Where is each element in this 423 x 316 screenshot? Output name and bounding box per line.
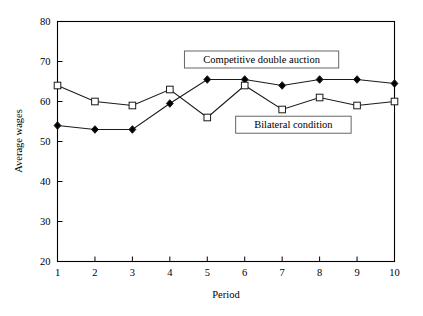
data-point-marker	[204, 114, 211, 121]
series-label-2: Bilateral condition	[236, 116, 351, 133]
x-axis-tick-label: 8	[317, 267, 322, 278]
data-point-marker	[167, 86, 174, 93]
y-axis-tick-label: 30	[40, 216, 51, 227]
y-axis-tick-label: 50	[40, 136, 51, 147]
series-label-text: Bilateral condition	[254, 119, 333, 130]
y-axis-tick-label: 60	[40, 96, 51, 107]
data-point-marker	[354, 102, 361, 109]
x-axis-tick-label: 5	[205, 267, 210, 278]
data-point-marker	[316, 94, 323, 101]
x-axis-tick-label: 9	[354, 267, 359, 278]
data-point-marker	[92, 98, 99, 105]
data-point-marker	[241, 82, 248, 89]
y-axis-title: Average wages	[13, 109, 24, 173]
x-axis-tick-label: 6	[242, 267, 247, 278]
average-wages-line-chart: 20304050607080 12345678910 Competitive d…	[0, 0, 423, 316]
y-axis-tick-label: 80	[40, 16, 51, 27]
x-axis-tick-label: 7	[280, 267, 285, 278]
chart-container: 20304050607080 12345678910 Competitive d…	[0, 0, 423, 316]
data-point-marker	[391, 98, 398, 105]
x-axis-title: Period	[212, 289, 240, 300]
x-axis-tick-label: 3	[130, 267, 135, 278]
y-axis-tick-label: 20	[40, 256, 51, 267]
series-label-1: Competitive double auction	[184, 51, 338, 68]
data-point-marker	[54, 82, 61, 89]
data-point-marker	[279, 106, 286, 113]
data-point-marker	[129, 102, 136, 109]
x-axis-tick-label: 10	[389, 267, 400, 278]
y-axis-tick-label: 70	[40, 56, 51, 67]
y-axis-tick-label: 40	[40, 176, 51, 187]
x-axis-tick-label: 2	[92, 267, 97, 278]
x-axis-tick-label: 1	[55, 267, 60, 278]
x-axis-tick-label: 4	[167, 267, 173, 278]
series-label-text: Competitive double auction	[203, 54, 320, 65]
